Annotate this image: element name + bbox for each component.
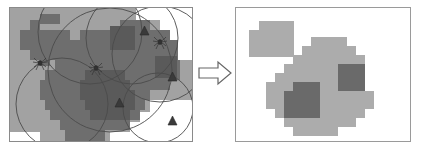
result-cell-light bbox=[266, 100, 374, 109]
raster-cell-medium bbox=[30, 40, 70, 50]
raster-cell-medium bbox=[30, 50, 60, 60]
result-cell-light bbox=[293, 127, 338, 136]
result-cell-light bbox=[293, 55, 365, 64]
raster-cell-medium bbox=[60, 120, 130, 130]
raster-cell-white bbox=[140, 112, 193, 122]
figure-root bbox=[0, 0, 421, 148]
raster-cell-medium bbox=[60, 50, 150, 60]
raster-cell-white bbox=[150, 100, 193, 112]
transformation-arrow bbox=[198, 60, 232, 86]
result-cell-light bbox=[259, 21, 294, 30]
result-cell-light bbox=[266, 91, 374, 100]
result-cell-light bbox=[284, 118, 356, 127]
raster-cell-dark bbox=[110, 26, 135, 50]
result-cell-dark bbox=[338, 64, 365, 91]
left-panel-raster bbox=[10, 8, 192, 141]
result-cell-dark bbox=[284, 91, 320, 118]
raster-cell-dark bbox=[90, 110, 130, 120]
raster-cell-medium bbox=[40, 14, 60, 24]
raster-cell-white bbox=[10, 132, 40, 142]
raster-cell-dark bbox=[80, 90, 135, 100]
raster-cell-dark bbox=[80, 80, 130, 90]
result-cell-light bbox=[302, 46, 356, 55]
raster-cell-medium bbox=[130, 30, 170, 40]
result-cell-light bbox=[249, 30, 294, 57]
result-cell-light bbox=[311, 37, 347, 46]
raster-cell-medium bbox=[20, 30, 30, 50]
raster-cell-white bbox=[110, 132, 193, 142]
raster-cell-medium bbox=[140, 40, 180, 50]
raster-cell-dark bbox=[155, 56, 177, 78]
right-panel bbox=[235, 7, 411, 142]
raster-cell-medium bbox=[30, 20, 40, 30]
right-panel-raster bbox=[236, 8, 410, 141]
raster-cell-medium bbox=[65, 130, 105, 141]
raster-cell-medium bbox=[30, 30, 70, 40]
raster-cell-dark bbox=[85, 70, 125, 80]
raster-cell-white bbox=[130, 122, 193, 132]
result-cell-dark bbox=[293, 82, 320, 91]
left-panel bbox=[9, 7, 193, 142]
raster-cell-dark bbox=[85, 100, 135, 110]
right-arrow-icon bbox=[198, 60, 232, 86]
raster-cell-medium bbox=[40, 60, 50, 66]
raster-cell-white bbox=[178, 30, 193, 60]
